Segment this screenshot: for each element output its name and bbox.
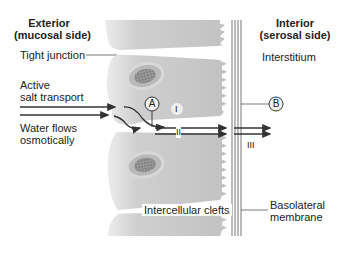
basolateral-line2: membrane (270, 211, 325, 223)
basolateral-line1: Basolateral (270, 199, 325, 211)
epithelial-transport-diagram: Exterior (mucosal side) Interior (serosa… (0, 0, 342, 253)
interior-title: Interior (250, 17, 340, 29)
active-salt-transport-line2: salt transport (20, 91, 84, 103)
exterior-header: Exterior (mucosal side) (14, 17, 84, 41)
water-flows-line2: osmotically (20, 134, 77, 146)
region-i-label: I (175, 103, 178, 115)
interior-subtitle: (serosal side) (250, 29, 340, 41)
interstitium-label: Interstitium (262, 51, 316, 63)
exterior-subtitle: (mucosal side) (14, 29, 84, 41)
intercellular-clefts-label: Intercellular clefts (142, 204, 232, 216)
active-salt-transport-label: Active salt transport (20, 79, 84, 103)
active-salt-transport-line1: Active (20, 79, 84, 91)
marker-b-label: B (272, 98, 280, 110)
exterior-title: Exterior (14, 17, 84, 29)
lower-cell (108, 132, 226, 210)
upper-cell-partial (105, 20, 225, 50)
bottom-cell-partial (108, 213, 226, 236)
region-iii-label: III (247, 139, 255, 151)
marker-a-label: A (148, 98, 156, 110)
water-flows-line1: Water flows (20, 122, 77, 134)
basolateral-membrane-label: Basolateral membrane (270, 199, 325, 223)
water-flows-label: Water flows osmotically (20, 122, 77, 146)
tight-junction-label: Tight junction (20, 49, 85, 61)
interior-header: Interior (serosal side) (250, 17, 340, 41)
middle-cell (107, 55, 227, 125)
region-ii-label: II (176, 126, 181, 138)
